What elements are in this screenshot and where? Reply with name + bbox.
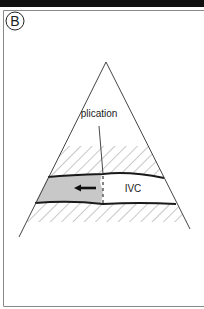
panel-label-badge: B [6, 12, 24, 30]
plication-label: plication [81, 108, 118, 119]
panel-label: B [10, 13, 19, 29]
ivc-label: IVC [125, 183, 142, 194]
ivc-plication-diagram: B plication IVC [0, 0, 204, 309]
